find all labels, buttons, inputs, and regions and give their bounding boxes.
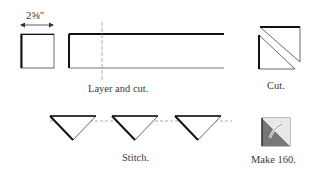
finished-unit-icon [262, 118, 290, 146]
step4-label: Make 160. [251, 154, 296, 165]
step1-label: Layer and cut. [88, 83, 148, 94]
cut-triangles [259, 27, 300, 69]
step3-label: Stitch. [122, 152, 149, 163]
stitch-triangle-3 [175, 116, 221, 140]
stitch-triangle-1 [50, 116, 96, 140]
square-patch [21, 34, 54, 68]
stitch-triangle-2 [112, 116, 158, 140]
dimension-label: 2⅝" [26, 9, 44, 21]
step2-label: Cut. [267, 80, 285, 91]
fabric-strip [69, 34, 224, 68]
dimension-arrow [20, 23, 54, 28]
